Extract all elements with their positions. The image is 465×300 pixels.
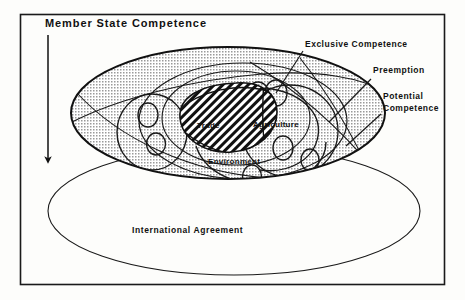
label-potential-competence-line2: Competence (383, 104, 439, 114)
figure-canvas: Member State Competence Exclusive Compet… (0, 0, 465, 300)
label-international-agreement: International Agreement (132, 226, 243, 236)
label-preemption: Preemption (373, 66, 425, 76)
label-potential-competence-line1: Potential (383, 92, 423, 102)
label-agriculture: Agriculture (253, 120, 299, 129)
label-trade: Trade (197, 121, 220, 130)
label-exclusive-competence: Exclusive Competence (305, 40, 408, 50)
label-environment: Environment (208, 157, 260, 166)
page-title: Member State Competence (45, 17, 207, 30)
